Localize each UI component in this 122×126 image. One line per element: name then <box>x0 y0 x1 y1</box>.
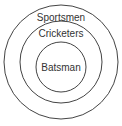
label-batsman: Batsman <box>41 62 80 73</box>
nested-circles-diagram: Sportsmen Cricketers Batsman <box>0 0 122 126</box>
label-cricketers: Cricketers <box>38 28 83 39</box>
label-sportsmen: Sportsmen <box>37 12 85 23</box>
